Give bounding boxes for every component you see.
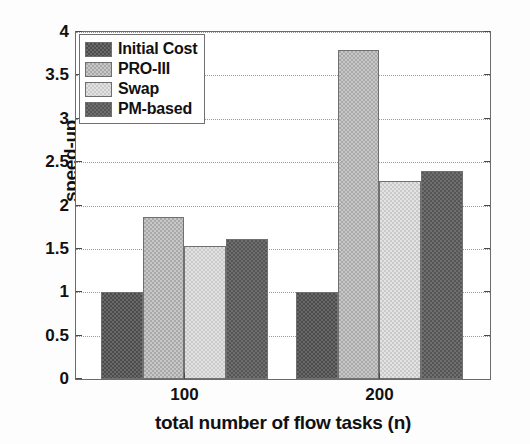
- ytick-mark-4: [76, 31, 82, 32]
- ytick-mark-0.5: [76, 335, 82, 336]
- legend-item-swap[interactable]: Swap: [85, 79, 197, 99]
- xtick-label-100: 100: [170, 385, 198, 405]
- xtick-mark-100: [184, 373, 185, 379]
- legend-item-initial-cost[interactable]: Initial Cost: [85, 39, 197, 59]
- bar-swap-200: [379, 181, 421, 379]
- xtick-mark-200: [379, 373, 380, 379]
- bar-initial-cost-100: [101, 292, 143, 379]
- bar-swap-100: [184, 246, 226, 379]
- legend-item-pro-iii[interactable]: PRO-III: [85, 59, 197, 79]
- ytick-mark-2.5: [76, 161, 82, 162]
- ytick-mark-right-2.5: [484, 161, 490, 162]
- chart-figure: speed-up total number of flow tasks (n) …: [0, 0, 530, 444]
- bar-initial-cost-200: [296, 292, 338, 379]
- ytick-label-1: 1: [60, 282, 69, 302]
- legend-label-swap: Swap: [118, 80, 159, 98]
- ytick-label-3: 3: [60, 109, 69, 129]
- legend-label-initial-cost: Initial Cost: [118, 40, 197, 58]
- bar-pro-iii-200: [338, 50, 380, 379]
- ytick-mark-right-1: [484, 291, 490, 292]
- ytick-label-1.5: 1.5: [45, 239, 69, 259]
- legend-label-pm-based: PM-based: [118, 100, 192, 118]
- bar-pm-based-200: [421, 171, 463, 379]
- ytick-mark-0: [76, 378, 82, 379]
- bar-pro-iii-100: [143, 217, 185, 379]
- legend-swatch-swap: [85, 82, 112, 97]
- legend-swatch-pro-iii: [85, 62, 112, 77]
- ytick-mark-right-3: [484, 118, 490, 119]
- ytick-mark-2: [76, 205, 82, 206]
- ytick-label-3.5: 3.5: [45, 65, 69, 85]
- x-axis-title: total number of flow tasks (n): [75, 412, 491, 434]
- legend-swatch-initial-cost: [85, 42, 112, 57]
- ytick-label-2.5: 2.5: [45, 152, 69, 172]
- gridline-2.5: [76, 162, 490, 163]
- ytick-label-4: 4: [60, 22, 69, 42]
- ytick-label-0.5: 0.5: [45, 326, 69, 346]
- ytick-mark-right-2: [484, 205, 490, 206]
- ytick-label-0: 0: [60, 369, 69, 389]
- legend-label-pro-iii: PRO-III: [118, 60, 170, 78]
- ytick-mark-right-3.5: [484, 74, 490, 75]
- legend-swatch-pm-based: [85, 102, 112, 117]
- ytick-mark-right-4: [484, 31, 490, 32]
- xtick-label-200: 200: [365, 385, 393, 405]
- bar-pm-based-100: [226, 239, 268, 379]
- gridline-4: [76, 32, 490, 33]
- plot-area: 4 3.5 3 2.5 2 1.5 1 0.5 0 100200 Initial…: [75, 31, 491, 380]
- legend-item-pm-based[interactable]: PM-based: [85, 99, 197, 119]
- ytick-mark-right-0.5: [484, 335, 490, 336]
- chart-legend: Initial Cost PRO-III Swap PM-based: [79, 34, 205, 124]
- ytick-label-2: 2: [60, 196, 69, 216]
- ytick-mark-1: [76, 291, 82, 292]
- ytick-mark-right-1.5: [484, 248, 490, 249]
- ytick-mark-1.5: [76, 248, 82, 249]
